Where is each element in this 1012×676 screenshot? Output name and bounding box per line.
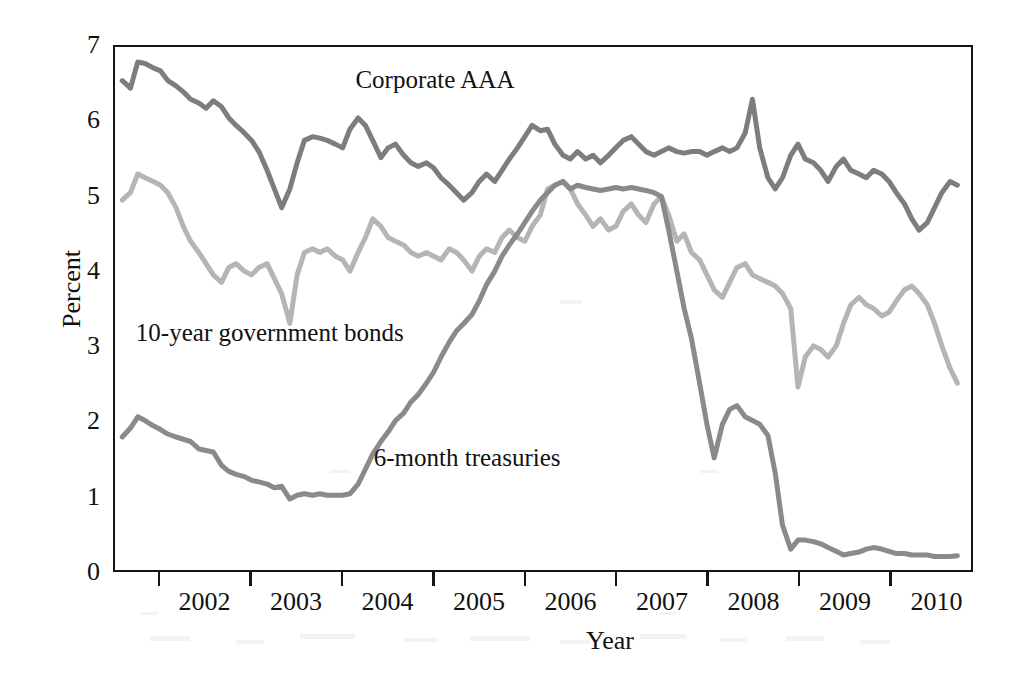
plot-area	[113, 45, 973, 572]
scan-artifact	[700, 470, 718, 473]
x-tick-label: 2004	[361, 588, 413, 615]
scan-artifact	[404, 638, 438, 642]
y-tick-label: 2	[87, 408, 100, 434]
scan-artifact	[150, 636, 190, 641]
x-tick-label: 2010	[910, 588, 962, 615]
y-tick-label: 3	[87, 333, 100, 359]
x-axis-title-text: Year	[586, 626, 634, 655]
series-line-10-year-government-bonds	[122, 174, 957, 387]
series-lines	[115, 47, 971, 570]
scan-artifact	[330, 470, 350, 473]
x-tick-mark	[524, 572, 527, 586]
x-tick-mark	[249, 572, 252, 586]
scan-artifact	[640, 634, 686, 639]
y-axis-tick-labels: 01234567	[62, 45, 100, 572]
scan-artifact	[860, 640, 890, 644]
x-tick-mark	[889, 572, 892, 586]
chart-figure: Percent 01234567 Corporate AAA 10-year g…	[0, 0, 1012, 676]
y-tick-label: 6	[87, 107, 100, 133]
x-tick-mark	[798, 572, 801, 586]
x-tick-mark	[432, 572, 435, 586]
series-label-corporate-aaa: Corporate AAA	[355, 67, 514, 92]
scan-artifact	[560, 640, 590, 644]
x-tick-label: 2006	[544, 588, 596, 615]
x-axis-tick-labels: 200220032004200520062007200820092010	[113, 588, 973, 624]
scan-artifact	[236, 640, 264, 644]
series-line-6-month-treasuries	[122, 181, 957, 556]
x-axis-ticks	[113, 572, 973, 588]
x-tick-label: 2003	[270, 588, 322, 615]
y-tick-label: 4	[87, 258, 100, 284]
x-tick-label: 2009	[819, 588, 871, 615]
x-tick-label: 2005	[453, 588, 505, 615]
x-tick-mark	[706, 572, 709, 586]
scan-artifact	[786, 636, 824, 641]
x-tick-mark	[341, 572, 344, 586]
scan-artifact	[300, 634, 355, 639]
scan-artifact	[140, 612, 158, 615]
x-tick-mark	[615, 572, 618, 586]
series-label-ten-year-government-bonds: 10-year government bonds	[136, 320, 404, 345]
series-label-six-month-treasuries: 6-month treasuries	[374, 445, 561, 470]
x-tick-label: 2008	[727, 588, 779, 615]
y-tick-label: 0	[87, 559, 100, 585]
x-tick-mark	[158, 572, 161, 586]
scan-artifact	[470, 636, 530, 641]
scan-artifact	[720, 638, 746, 642]
y-tick-label: 7	[87, 32, 100, 58]
scan-artifact	[560, 300, 582, 304]
y-tick-label: 5	[87, 183, 100, 209]
scan-artifact	[660, 612, 676, 615]
y-tick-label: 1	[87, 484, 100, 510]
x-tick-label: 2002	[178, 588, 230, 615]
